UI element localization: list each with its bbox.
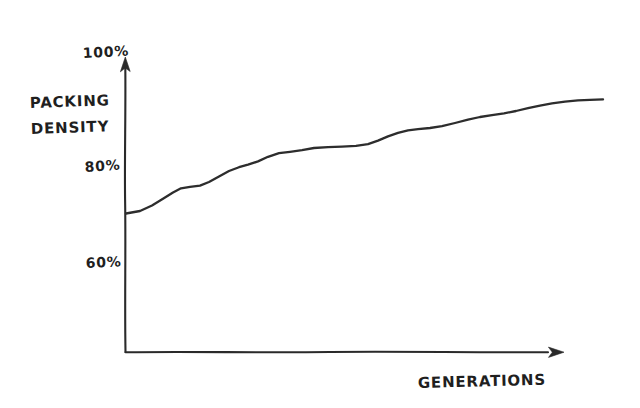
y-axis-title-line2: DENSITY [31, 117, 110, 138]
y-axis-line [125, 66, 126, 352]
y-tick-label-60: 60% [85, 253, 122, 271]
y-tick-label-100: 100% [82, 43, 129, 61]
y-tick-label-80: 80% [84, 157, 121, 175]
y-axis-title-line1: PACKING [30, 91, 110, 112]
x-axis-arrowhead [548, 347, 564, 357]
hand-drawn-chart: 100% 80% 60% PACKING DENSITY GENERATIONS [0, 0, 640, 408]
packing-density-curve [126, 99, 603, 213]
x-axis-line [126, 352, 549, 353]
chart-canvas: 100% 80% 60% PACKING DENSITY GENERATIONS [0, 0, 640, 408]
x-axis-title: GENERATIONS [418, 371, 547, 392]
